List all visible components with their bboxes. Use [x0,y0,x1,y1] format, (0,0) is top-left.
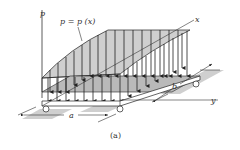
p-axis-label: p [40,9,45,18]
figure-caption: (a) [110,131,121,140]
dimension-b-label: b [172,82,177,91]
distributed-load-diagram: x y a b p p = p (x) (a) [0,0,240,150]
x-axis-label: x [195,15,200,24]
load-function-leader [78,27,82,41]
y-axis-label: y [210,96,216,105]
load-function-label: p = p (x) [60,17,95,26]
dimension-a-label: a [69,111,74,120]
